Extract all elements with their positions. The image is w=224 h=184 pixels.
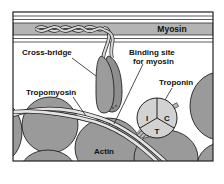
troponin-c-label: C	[164, 114, 170, 123]
myosin-tail	[36, 27, 104, 32]
binding-site-label-line2: for myosin	[133, 57, 174, 66]
myosin-label: Myosin	[157, 24, 186, 34]
actin-label: Actin	[94, 147, 114, 156]
sarcomere-diagram: I C T Myosin Cross-bridge Binding site f…	[0, 0, 224, 184]
troponin-i-label: I	[146, 114, 148, 123]
tropomyosin-label: Tropomyosin	[26, 88, 76, 97]
troponin-t-label: T	[155, 127, 160, 136]
troponin-label: Troponin	[159, 78, 193, 87]
binding-site-label-line1: Binding site	[129, 48, 175, 57]
cross-bridge-label: Cross-bridge	[22, 48, 72, 57]
